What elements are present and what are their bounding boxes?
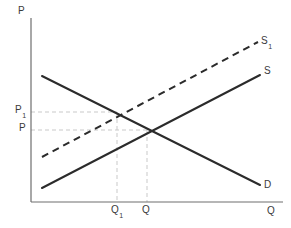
gridlines [31,112,147,202]
tick-label-price-shifted: P1 [15,105,26,117]
tick-label-price-initial: P [19,123,26,133]
supply-shifted-curve [42,42,258,157]
curves [42,42,260,188]
tick-label-quantity-shifted-text: Q [111,204,119,215]
curve-label-supply-shifted-subscript: 1 [268,43,272,50]
curve-label-supply: S [264,66,271,76]
tick-label-price-shifted-text: P [15,104,22,115]
y-axis-label: P [18,6,25,16]
tick-label-quantity-shifted: Q1 [111,205,123,217]
tick-label-price-shifted-subscript: 1 [22,112,26,119]
chart-canvas [0,0,291,228]
tick-label-quantity-initial: Q [142,205,150,215]
curve-label-demand: D [264,180,271,190]
curve-label-supply-shifted: S1 [261,36,272,48]
tick-label-quantity-shifted-subscript: 1 [119,212,123,219]
supply-demand-chart: P Q P1 P Q1 Q S1 S D [0,0,291,228]
x-axis-label: Q [267,206,275,216]
curve-label-supply-shifted-text: S [261,35,268,46]
